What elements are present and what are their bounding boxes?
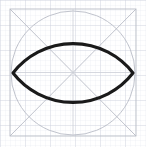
geometry-figure (0, 0, 146, 147)
construction-lines (10, 9, 136, 136)
figure-canvas (0, 0, 146, 147)
